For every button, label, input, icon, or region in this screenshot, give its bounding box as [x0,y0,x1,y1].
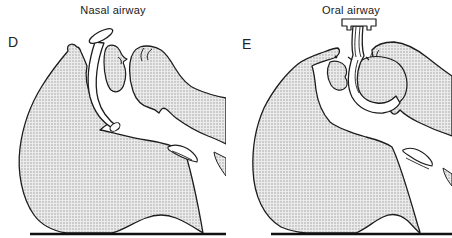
neck-corner-shape [214,152,226,176]
upper-lip-shape [327,61,347,90]
panel-nasal-airway: D Nasal airway [0,0,226,238]
nostril-detail [335,56,338,59]
panel-title: Nasal airway [0,4,226,16]
panel-oral-airway: E Oral airway [226,0,452,238]
neck-corner-shape [443,168,452,186]
tongue-jaw-shape [130,46,226,144]
oral-airway-illustration [226,0,452,238]
panel-title: Oral airway [226,4,452,16]
panel-label: D [8,34,18,50]
panel-label: E [242,36,251,52]
upper-lip-shape [104,45,127,92]
nasal-airway-illustration [0,0,226,238]
anesthesia-airway-figure: D Nasal airway [0,0,452,238]
